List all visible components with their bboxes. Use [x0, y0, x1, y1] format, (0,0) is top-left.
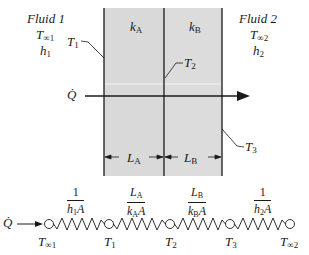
resistance-conv-2: 1 h2A	[254, 186, 271, 217]
node-label-t1: T1	[104, 235, 116, 250]
node-label-t2: T2	[165, 235, 177, 250]
node-tinf2	[286, 220, 295, 229]
arrowhead-icon	[35, 221, 43, 227]
node-label-tinf1: T∞1	[38, 235, 56, 250]
node-tinf1	[45, 220, 54, 229]
surface-t1: T1	[67, 35, 79, 50]
layer-a-thickness: LA	[127, 151, 141, 166]
fluid-2-h: h2	[253, 44, 264, 59]
arrowhead-icon	[237, 91, 250, 101]
fluid-1-temp: T∞1	[36, 28, 54, 43]
resistor-conv-1	[54, 218, 105, 230]
surface-t3: T3	[245, 140, 257, 155]
node-label-tinf2: T∞2	[280, 235, 298, 250]
t3-leader	[222, 129, 244, 147]
resistance-conv-1: 1 h1A	[67, 186, 84, 217]
heat-flow-label: Q̇	[67, 88, 76, 101]
fluid-2-temp: T∞2	[250, 28, 268, 43]
layer-b-thickness: LB	[184, 151, 197, 166]
layer-a-k: kA	[130, 20, 142, 35]
resistance-cond-b: LB kBA	[188, 186, 206, 219]
surface-t2: T2	[184, 56, 196, 71]
fluid-1-label: Fluid 1	[27, 12, 65, 25]
node-t1	[105, 220, 114, 229]
node-label-t3: T3	[225, 235, 237, 250]
resistor-cond-b	[175, 218, 226, 230]
node-t3	[226, 220, 235, 229]
resistor-conv-2	[235, 218, 286, 230]
resistor-cond-a	[114, 218, 166, 230]
fluid-2-label: Fluid 2	[239, 12, 277, 25]
fluid-1-h: h1	[40, 44, 51, 59]
node-t2	[166, 220, 175, 229]
layer-b-k: kB	[189, 20, 201, 35]
t1-leader	[81, 41, 104, 58]
resistance-cond-a: LA kAA	[127, 186, 145, 219]
circuit-heat-flow-label: Q̇	[3, 216, 12, 229]
